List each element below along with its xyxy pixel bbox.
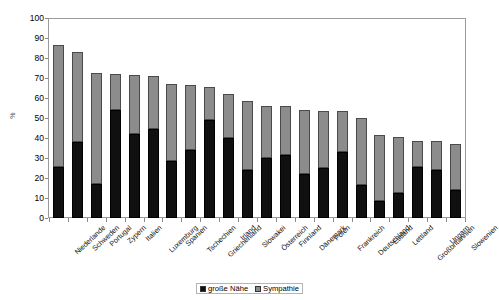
y-axis-tick-label: 20: [0, 174, 44, 183]
x-axis-tick-mark: [446, 218, 447, 222]
x-axis-tick-mark: [333, 218, 334, 222]
y-axis-tick-mark: [45, 38, 48, 39]
y-axis-tick-mark: [45, 218, 48, 219]
y-axis-tick-label: 80: [0, 54, 44, 63]
y-axis-tick-mark: [45, 158, 48, 159]
bar-segment-grosse-naehe[interactable]: [299, 174, 310, 218]
x-axis-tick-mark: [219, 218, 220, 222]
y-axis-tick-label: 70: [0, 74, 44, 83]
y-axis-tick-label: 60: [0, 94, 44, 103]
x-axis-tick-mark: [162, 218, 163, 222]
bar-segment-grosse-naehe[interactable]: [242, 170, 253, 218]
bar-segment-grosse-naehe[interactable]: [148, 129, 159, 218]
bar-segment-sympathie[interactable]: [450, 144, 461, 190]
bar-segment-sympathie[interactable]: [393, 137, 404, 193]
legend-label-grosse-naehe: große Nähe: [208, 285, 248, 293]
x-axis-tick-mark: [125, 218, 126, 222]
bar-segment-grosse-naehe[interactable]: [166, 161, 177, 218]
y-axis-tick-mark: [45, 118, 48, 119]
bar-segment-sympathie[interactable]: [412, 141, 423, 167]
legend-item-sympathie: Sympathie: [255, 285, 299, 293]
bar-segment-grosse-naehe[interactable]: [223, 138, 234, 218]
bar-segment-sympathie[interactable]: [374, 135, 385, 201]
bar-segment-sympathie[interactable]: [53, 45, 64, 167]
x-axis-tick-mark: [200, 218, 201, 222]
x-axis-tick-mark: [370, 218, 371, 222]
y-axis-tick-mark: [45, 98, 48, 99]
bar-segment-sympathie[interactable]: [223, 94, 234, 139]
bar-segment-sympathie[interactable]: [129, 75, 140, 135]
bar-segment-sympathie[interactable]: [166, 84, 177, 162]
black-square-icon: [200, 286, 206, 292]
y-axis-tick-mark: [45, 58, 48, 59]
y-axis-tick-mark: [45, 198, 48, 199]
x-axis-tick-mark: [181, 218, 182, 222]
x-axis-tick-mark: [408, 218, 409, 222]
x-axis-tick-mark: [295, 218, 296, 222]
y-axis-tick-label: 50: [0, 114, 44, 123]
x-axis-tick-mark: [314, 218, 315, 222]
bar-segment-grosse-naehe[interactable]: [91, 184, 102, 218]
bars-layer: [49, 19, 465, 218]
x-axis-tick-mark: [276, 218, 277, 222]
x-axis-category-label: Italien: [144, 224, 163, 243]
bar-segment-grosse-naehe[interactable]: [318, 168, 329, 218]
bar-segment-sympathie[interactable]: [356, 118, 367, 186]
bar-segment-grosse-naehe[interactable]: [261, 158, 272, 218]
bar-segment-sympathie[interactable]: [91, 73, 102, 184]
x-axis-tick-mark: [427, 218, 428, 222]
clipped-header-strip: [0, 0, 479, 6]
legend-label-sympathie: Sympathie: [263, 285, 299, 293]
bar-segment-grosse-naehe[interactable]: [204, 120, 215, 219]
bar-segment-sympathie[interactable]: [185, 85, 196, 151]
gray-square-icon: [255, 286, 261, 292]
x-axis-tick-mark: [106, 218, 107, 222]
y-axis-tick-mark: [45, 178, 48, 179]
y-axis-tick-label: 10: [0, 194, 44, 203]
x-axis-category-label: Estland: [391, 224, 414, 246]
bar-segment-sympathie[interactable]: [148, 76, 159, 130]
bar-segment-sympathie[interactable]: [110, 74, 121, 110]
x-axis-tick-mark: [352, 218, 353, 222]
bar-segment-grosse-naehe[interactable]: [393, 193, 404, 218]
bar-segment-grosse-naehe[interactable]: [337, 152, 348, 218]
bar-segment-grosse-naehe[interactable]: [110, 110, 121, 218]
bar-segment-grosse-naehe[interactable]: [280, 155, 291, 218]
y-axis-tick-mark: [45, 18, 48, 19]
bar-segment-sympathie[interactable]: [204, 87, 215, 120]
bar-segment-grosse-naehe[interactable]: [185, 150, 196, 218]
x-axis-tick-mark: [87, 218, 88, 222]
x-axis-tick-mark: [238, 218, 239, 222]
x-axis-category-label: Lettland: [411, 224, 435, 247]
x-axis-tick-mark: [257, 218, 258, 222]
bar-segment-grosse-naehe[interactable]: [129, 134, 140, 218]
x-axis-tick-mark: [68, 218, 69, 222]
bar-segment-sympathie[interactable]: [318, 111, 329, 169]
bar-segment-grosse-naehe[interactable]: [450, 190, 461, 218]
bar-segment-grosse-naehe[interactable]: [53, 167, 64, 218]
bar-segment-sympathie[interactable]: [337, 111, 348, 153]
bar-segment-sympathie[interactable]: [261, 106, 272, 159]
y-axis-tick-label: 0: [0, 214, 44, 223]
bar-segment-grosse-naehe[interactable]: [374, 201, 385, 218]
bar-segment-sympathie[interactable]: [280, 106, 291, 156]
bar-segment-sympathie[interactable]: [242, 101, 253, 171]
y-axis-tick-mark: [45, 138, 48, 139]
y-axis-tick-label: 30: [0, 154, 44, 163]
bar-segment-grosse-naehe[interactable]: [431, 170, 442, 218]
y-axis-tick-label: 40: [0, 134, 44, 143]
x-axis-tick-mark: [144, 218, 145, 222]
bar-segment-grosse-naehe[interactable]: [412, 167, 423, 218]
bar-segment-sympathie[interactable]: [431, 141, 442, 170]
x-axis-tick-mark: [389, 218, 390, 222]
bar-segment-sympathie[interactable]: [72, 52, 83, 143]
bar-segment-sympathie[interactable]: [299, 110, 310, 175]
y-axis-tick-label: 90: [0, 34, 44, 43]
x-axis-tick-mark: [465, 218, 466, 222]
y-axis-tick-mark: [45, 78, 48, 79]
y-axis-tick-label: 100: [0, 14, 44, 23]
bar-segment-grosse-naehe[interactable]: [72, 142, 83, 218]
bar-segment-grosse-naehe[interactable]: [356, 185, 367, 218]
x-axis-tick-mark: [49, 218, 50, 222]
